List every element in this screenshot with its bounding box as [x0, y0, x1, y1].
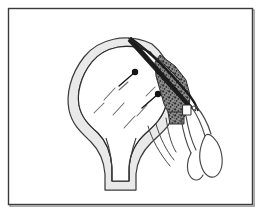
pin-head — [132, 69, 138, 75]
illustration-figure — [0, 0, 260, 212]
illustration-canvas — [0, 0, 260, 212]
forceps-joint — [183, 105, 191, 115]
